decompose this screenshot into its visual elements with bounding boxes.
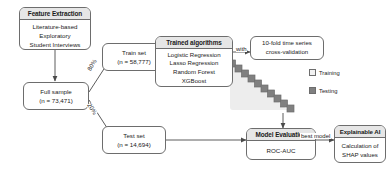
feature-extraction-item: Student Interviews <box>30 40 81 49</box>
node-trained-algorithms[interactable]: Trained algorithms Logistic Regression L… <box>155 36 233 87</box>
model-evaluation-item: ROC-AUC <box>267 146 296 155</box>
legend-label-training: Training <box>319 70 340 76</box>
feature-extraction-body: Literature-based Exploratory Student Int… <box>20 20 90 50</box>
edge-label-with: with <box>236 46 247 52</box>
testing-swatch-icon <box>309 87 316 94</box>
explainable-ai-item: Calculation of <box>342 142 379 151</box>
edge-label-train-split: 80% <box>86 58 98 71</box>
cross-validation-line2: cross-validation <box>266 48 308 57</box>
algorithm-item: Logistic Regression <box>167 51 220 60</box>
training-swatch-icon <box>309 69 316 76</box>
legend-item-testing: Testing <box>309 87 337 94</box>
algorithm-item: Lasso Regression <box>170 59 219 68</box>
node-explainable-ai[interactable]: Explainable AI Calculation of SHAP value… <box>334 125 386 163</box>
trained-algorithms-body: Logistic Regression Lasso Regression Ran… <box>156 49 232 87</box>
algorithm-item: XGBoost <box>182 77 206 86</box>
flowchart-canvas: Feature Extraction Literature-based Expl… <box>0 0 391 169</box>
test-set-line1: Test set <box>123 131 144 140</box>
full-sample-line2: (n = 73,471) <box>39 96 73 105</box>
node-feature-extraction[interactable]: Feature Extraction Literature-based Expl… <box>19 7 91 50</box>
legend-item-training: Training <box>309 69 340 76</box>
feature-extraction-item: Exploratory <box>39 31 70 40</box>
algorithm-item: Random Forest <box>173 68 215 77</box>
node-test-set[interactable]: Test set (n = 14,694) <box>102 126 166 154</box>
feature-extraction-header: Feature Extraction <box>20 8 90 20</box>
test-set-line2: (n = 14,694) <box>117 140 151 149</box>
cross-validation-line1: 10-fold time series <box>262 39 312 48</box>
train-set-line1: Train set <box>122 48 146 57</box>
explainable-ai-header: Explainable AI <box>335 126 385 138</box>
model-evaluation-body: ROC-AUC <box>247 141 315 160</box>
edge-label-test-split: 20% <box>86 102 98 115</box>
full-sample-line1: Full sample <box>40 87 72 96</box>
node-cross-validation[interactable]: 10-fold time series cross-validation <box>250 36 324 60</box>
legend-label-testing: Testing <box>319 88 337 94</box>
node-full-sample[interactable]: Full sample (n = 73,471) <box>23 82 89 110</box>
feature-extraction-item: Literature-based <box>32 22 77 31</box>
explainable-ai-body: Calculation of SHAP values <box>335 138 385 163</box>
trained-algorithms-header: Trained algorithms <box>156 37 232 49</box>
explainable-ai-item: SHAP values <box>342 151 378 160</box>
train-set-line2: (n = 58,777) <box>117 57 151 66</box>
edge-label-best-model: best model <box>300 133 331 139</box>
cv-staircase <box>229 60 295 112</box>
